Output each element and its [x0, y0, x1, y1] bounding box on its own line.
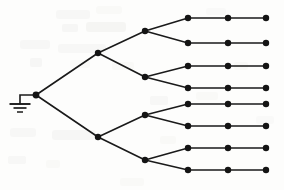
tree-node-leaf-6-c	[263, 123, 269, 129]
node-layer	[33, 15, 270, 173]
scan-artifact	[30, 58, 42, 67]
tree-node-leaf-2-a	[185, 40, 191, 46]
tree-node-leaf-4-b	[225, 85, 231, 91]
scan-artifact	[46, 160, 60, 168]
tree-edge	[145, 148, 188, 160]
tree-edge	[98, 31, 145, 53]
scan-artifact	[96, 6, 122, 14]
scan-artifact	[206, 8, 226, 15]
edge-layer	[36, 18, 266, 170]
tree-node-leaf-1-c	[263, 15, 269, 21]
tree-node-branch-1	[142, 28, 148, 34]
tree-edge	[145, 104, 188, 115]
tree-node-leaf-7-b	[225, 145, 231, 151]
tree-edge	[145, 77, 188, 88]
scan-artifact	[10, 128, 36, 137]
tree-node-leaf-3-c	[263, 63, 269, 69]
tree-node-upper-branch	[95, 50, 101, 56]
tree-node-leaf-3-b	[225, 63, 231, 69]
tree-node-leaf-4-a	[185, 85, 191, 91]
tree-edge	[98, 115, 145, 137]
tree-node-leaf-8-b	[225, 167, 231, 173]
tree-node-leaf-8-a	[185, 167, 191, 173]
tree-edge	[145, 66, 188, 77]
tree-edge	[98, 137, 145, 160]
tree-node-branch-2	[142, 74, 148, 80]
tree-edge	[145, 31, 188, 43]
tree-node-leaf-3-a	[185, 63, 191, 69]
scan-artifact	[20, 40, 50, 49]
scan-artifact	[160, 136, 176, 144]
tree-canvas	[0, 0, 284, 190]
scan-artifact	[196, 92, 218, 100]
scan-artifact	[86, 22, 126, 32]
tree-node-leaf-4-c	[263, 85, 269, 91]
tree-node-root	[33, 92, 40, 99]
tree-node-branch-3	[142, 112, 148, 118]
tree-node-leaf-2-b	[225, 40, 231, 46]
tree-node-leaf-8-c	[263, 167, 269, 173]
tree-node-leaf-6-a	[185, 123, 191, 129]
tree-node-branch-4	[142, 157, 148, 163]
scan-artifact	[62, 24, 78, 32]
tree-edge	[145, 160, 188, 170]
tree-node-leaf-5-a	[185, 101, 191, 107]
tree-node-lower-branch	[95, 134, 101, 140]
tree-node-leaf-5-b	[225, 101, 231, 107]
tree-diagram	[0, 0, 284, 190]
tree-node-leaf-1-b	[225, 15, 231, 21]
scan-artifact	[256, 116, 274, 124]
tree-node-leaf-5-c	[263, 101, 269, 107]
scan-artifact	[150, 96, 168, 105]
tree-node-leaf-7-c	[263, 145, 269, 151]
tree-edge	[145, 115, 188, 126]
tree-edge	[36, 53, 98, 95]
tree-node-leaf-1-a	[185, 15, 191, 21]
scan-artifact	[120, 178, 144, 186]
scan-artifact	[56, 10, 90, 19]
tree-node-leaf-2-c	[263, 40, 269, 46]
tree-node-leaf-6-b	[225, 123, 231, 129]
ground-symbol-icon	[10, 95, 37, 112]
tree-edge	[145, 18, 188, 31]
scan-artifact	[8, 156, 26, 164]
tree-edge	[98, 53, 145, 77]
tree-node-leaf-7-a	[185, 145, 191, 151]
